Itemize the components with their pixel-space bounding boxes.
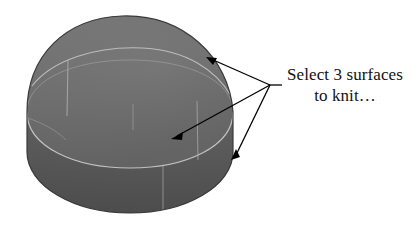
leader-line-skirt-surface (236, 85, 270, 155)
figure-canvas: Select 3 surfaces to knit… (0, 0, 412, 240)
cad-solid-illustration (0, 0, 412, 240)
callout-label-line-2: to knit… (278, 85, 412, 106)
callout-label: Select 3 surfaces to knit… (278, 64, 412, 106)
callout-label-line-1: Select 3 surfaces (278, 64, 412, 85)
